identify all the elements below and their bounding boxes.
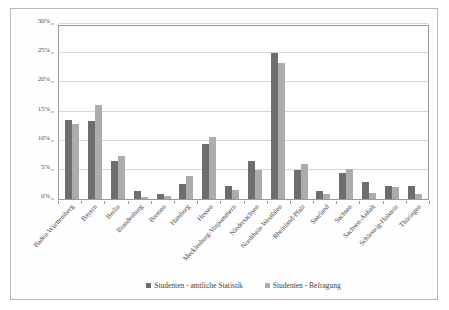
bar bbox=[202, 144, 209, 199]
x-axis-tick-mark bbox=[244, 201, 245, 204]
x-axis-tick-mark bbox=[383, 201, 384, 204]
x-axis-tick-label: Saarland bbox=[308, 203, 330, 226]
bar bbox=[362, 182, 369, 199]
bar bbox=[346, 169, 353, 199]
bar bbox=[255, 170, 262, 199]
bar-group bbox=[129, 26, 152, 199]
x-axis-tick-mark bbox=[81, 201, 82, 204]
x-axis-tick-mark bbox=[58, 201, 59, 204]
x-axis-tick-label: Berlin bbox=[104, 203, 121, 221]
x-axis-tick-label: Bremen bbox=[148, 203, 169, 224]
bar bbox=[385, 186, 392, 199]
legend-item[interactable]: Studenten - Befragung bbox=[265, 281, 341, 290]
x-axis-tick-mark bbox=[151, 201, 152, 204]
y-axis-tick-label: 20% bbox=[38, 75, 50, 83]
bar bbox=[369, 193, 376, 199]
y-axis-tick-mark bbox=[51, 111, 54, 112]
bar-group bbox=[152, 26, 175, 199]
bar bbox=[392, 187, 399, 199]
bar bbox=[134, 191, 141, 199]
x-axis-tick-mark bbox=[174, 201, 175, 204]
bar bbox=[95, 105, 102, 199]
x-axis-tick-label: Hessen bbox=[195, 203, 214, 223]
bar-group bbox=[221, 26, 244, 199]
y-axis: 0%5%10%15%20%25%30% bbox=[16, 25, 54, 200]
x-axis-tick-label: Bayern bbox=[79, 203, 98, 223]
bar bbox=[118, 156, 125, 199]
bar bbox=[225, 186, 232, 199]
x-axis-tick-label: Hamburg bbox=[168, 203, 191, 227]
bar-group bbox=[198, 26, 221, 199]
x-axis-tick-label: Thüringen bbox=[398, 203, 423, 229]
bar bbox=[164, 196, 171, 200]
x-axis-tick-mark bbox=[406, 201, 407, 204]
bar-group bbox=[335, 26, 358, 199]
bar bbox=[88, 121, 95, 199]
bar bbox=[278, 63, 285, 200]
x-axis-tick-mark bbox=[104, 201, 105, 204]
bar-group bbox=[61, 26, 84, 199]
legend-swatch bbox=[146, 283, 151, 288]
x-axis-tick-mark bbox=[429, 201, 430, 204]
bar bbox=[323, 194, 330, 199]
bar bbox=[408, 186, 415, 199]
bar bbox=[339, 173, 346, 199]
y-axis-tick-mark bbox=[51, 24, 54, 25]
bar bbox=[141, 197, 148, 199]
bar bbox=[248, 161, 255, 200]
legend-swatch bbox=[265, 283, 270, 288]
x-axis-tick-mark bbox=[128, 201, 129, 204]
x-axis-tick-mark bbox=[220, 201, 221, 204]
bar bbox=[186, 176, 193, 199]
bar-group bbox=[266, 26, 289, 199]
bar-group bbox=[107, 26, 130, 199]
bar-group bbox=[358, 26, 381, 199]
bar bbox=[271, 53, 278, 199]
gridline bbox=[59, 23, 428, 24]
bar bbox=[179, 184, 186, 199]
bar bbox=[316, 191, 323, 199]
bar-group bbox=[175, 26, 198, 199]
bar-group bbox=[380, 26, 403, 199]
x-axis-tick-mark bbox=[359, 201, 360, 204]
bar bbox=[72, 124, 79, 199]
legend-item[interactable]: Studenten - amtliche Statistik bbox=[146, 281, 243, 290]
y-axis-tick-mark bbox=[51, 82, 54, 83]
y-axis-tick-mark bbox=[51, 140, 54, 141]
y-axis-tick-mark bbox=[51, 199, 54, 200]
x-axis-tick-mark bbox=[313, 201, 314, 204]
y-axis-tick-label: 15% bbox=[38, 105, 50, 113]
chart-legend: Studenten - amtliche StatistikStudenten … bbox=[58, 281, 429, 290]
bars-layer bbox=[59, 26, 428, 199]
y-axis-tick-label: 5% bbox=[41, 163, 50, 171]
bar-group bbox=[312, 26, 335, 199]
x-axis-tick-mark bbox=[290, 201, 291, 204]
bar bbox=[294, 170, 301, 199]
legend-label: Studenten - amtliche Statistik bbox=[154, 281, 243, 290]
y-axis-tick-label: 0% bbox=[41, 192, 50, 200]
bar bbox=[209, 137, 216, 199]
y-axis-tick-label: 30% bbox=[38, 17, 50, 25]
bar-group bbox=[84, 26, 107, 199]
bar bbox=[111, 161, 118, 199]
bar bbox=[65, 120, 72, 199]
y-axis-tick-label: 10% bbox=[38, 134, 50, 142]
bar-group bbox=[244, 26, 267, 199]
plot-area bbox=[58, 25, 429, 200]
bar bbox=[232, 190, 239, 199]
y-axis-tick-label: 25% bbox=[38, 46, 50, 54]
x-axis-tick-label: Sachsen bbox=[333, 203, 354, 225]
bar bbox=[157, 194, 164, 199]
bar bbox=[415, 194, 422, 199]
x-axis-tick-mark bbox=[336, 201, 337, 204]
y-axis-tick-mark bbox=[51, 169, 54, 170]
x-axis-tick-mark bbox=[197, 201, 198, 204]
legend-label: Studenten - Befragung bbox=[273, 281, 341, 290]
bar bbox=[301, 164, 308, 199]
chart-figure: 0%5%10%15%20%25%30% Baden-WürttembergBay… bbox=[0, 0, 449, 310]
bar-group bbox=[289, 26, 312, 199]
bar-group bbox=[403, 26, 426, 199]
y-axis-tick-mark bbox=[51, 53, 54, 54]
x-axis-tick-mark bbox=[267, 201, 268, 204]
x-axis: Baden-WürttembergBayernBerlinBrandenburg… bbox=[58, 201, 429, 271]
